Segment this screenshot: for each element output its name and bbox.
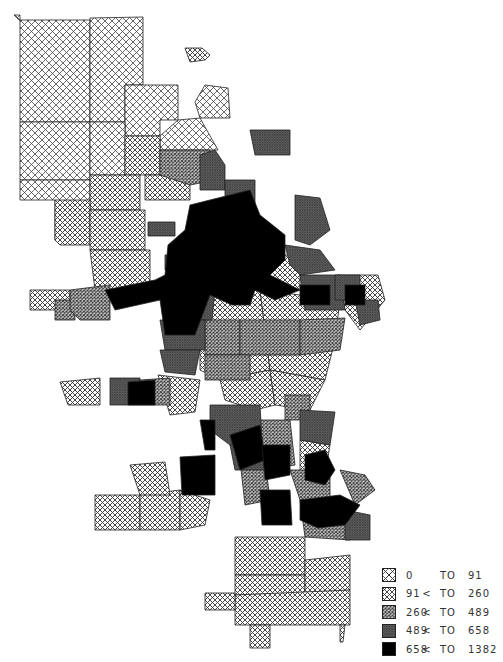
pattern-swatch-icon: [382, 642, 396, 656]
pattern-swatch-icon: [382, 605, 396, 619]
legend-low-value: 0: [406, 570, 420, 581]
legend-high-value: 91: [468, 570, 483, 581]
legend-operator: <: [420, 588, 434, 599]
legend-to: TO: [440, 607, 462, 618]
legend-row-class-4: 489 < TO 658: [382, 622, 502, 641]
legend-high-value: 658: [468, 625, 490, 636]
choropleth-map: [0, 0, 503, 662]
legend-high-value: 260: [468, 588, 490, 599]
legend-low-value: 489: [406, 625, 420, 636]
legend-row-class-1: 0 TO 91: [382, 566, 502, 585]
legend-to: TO: [440, 644, 462, 655]
legend-operator: <: [420, 607, 434, 618]
pattern-swatch-icon: [382, 624, 396, 638]
legend-row-class-3: 260 < TO 489: [382, 603, 502, 622]
pattern-swatch-icon: [382, 587, 396, 601]
legend-to: TO: [440, 570, 462, 581]
legend-high-value: 489: [468, 607, 490, 618]
map-legend: 0 TO 91 91 < TO 260 260 < TO 489 489 < T…: [382, 566, 502, 659]
legend-low-value: 91: [406, 588, 420, 599]
legend-low-value: 260: [406, 607, 420, 618]
legend-low-value: 658: [406, 644, 420, 655]
legend-operator: <: [420, 625, 434, 636]
legend-operator: <: [420, 644, 434, 655]
legend-row-class-2: 91 < TO 260: [382, 585, 502, 604]
legend-high-value: 1382: [468, 644, 497, 655]
pattern-swatch-icon: [382, 568, 396, 582]
legend-to: TO: [440, 625, 462, 636]
legend-row-class-5: 658 < TO 1382: [382, 640, 502, 659]
legend-to: TO: [440, 588, 462, 599]
